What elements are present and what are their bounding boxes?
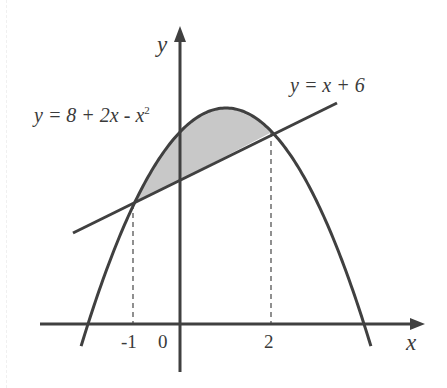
y-axis-arrow-icon bbox=[174, 26, 186, 42]
parabola-equation-label: y = 8 + 2x - x2 bbox=[34, 104, 150, 127]
parabola-exponent: 2 bbox=[144, 104, 150, 116]
tick-label-2: 2 bbox=[264, 331, 274, 353]
parabola-equation-text: y = 8 + 2x - x bbox=[34, 104, 144, 126]
x-axis-label: x bbox=[406, 330, 416, 356]
x-axis-arrow-icon bbox=[410, 318, 425, 330]
shaded-area-region bbox=[134, 108, 272, 204]
graph-canvas bbox=[0, 0, 447, 388]
y-axis-label: y bbox=[157, 32, 167, 58]
line-equation-label: y = x + 6 bbox=[290, 74, 365, 97]
tick-label-minus-1: -1 bbox=[121, 331, 137, 353]
origin-label: 0 bbox=[158, 331, 168, 353]
